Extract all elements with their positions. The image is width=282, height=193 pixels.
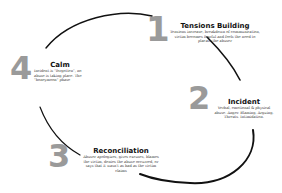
stage-description: Incident is "forgotten", no abuse is tak… xyxy=(34,69,86,83)
stage-reconciliation: Reconciliation Abuser apologizes, gives … xyxy=(80,147,162,173)
stage-description: Verbal, emotional & physical abuse. Ange… xyxy=(212,106,276,120)
stage-title: Calm xyxy=(34,61,86,69)
stage-number-2: 2 xyxy=(188,82,210,114)
stage-calm: Calm Incident is "forgotten", no abuse i… xyxy=(34,61,86,83)
stage-tensions-building: Tensions Building Tensions increase, bre… xyxy=(168,22,262,44)
stage-title: Incident xyxy=(212,98,276,106)
stage-title: Reconciliation xyxy=(80,147,162,155)
stage-incident: Incident Verbal, emotional & physical ab… xyxy=(212,98,276,120)
stage-number-3: 3 xyxy=(48,140,70,172)
stage-description: Tensions increase, breakdown of communic… xyxy=(168,30,262,44)
arc-calm-to-tensions xyxy=(46,13,152,48)
stage-description: Abuser apologizes, gives excuses, blames… xyxy=(80,155,162,173)
stage-number-4: 4 xyxy=(10,52,32,84)
stage-title: Tensions Building xyxy=(168,22,262,30)
stage-number-1: 1 xyxy=(146,12,170,46)
